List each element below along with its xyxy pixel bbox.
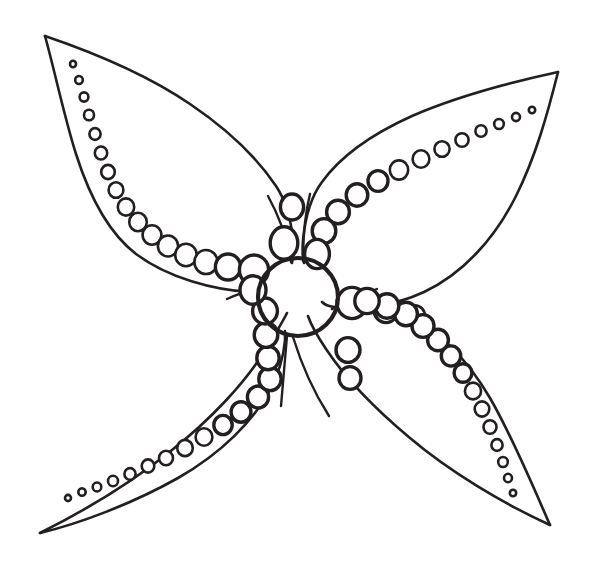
bead bbox=[494, 119, 504, 129]
bead bbox=[465, 383, 481, 400]
bead bbox=[70, 61, 76, 67]
bead bbox=[475, 401, 490, 416]
bead bbox=[108, 476, 118, 486]
bead bbox=[257, 346, 279, 370]
bead bbox=[231, 402, 251, 423]
coloring-page-canvas bbox=[0, 0, 604, 567]
bead bbox=[84, 110, 94, 121]
bead bbox=[346, 184, 368, 206]
bead bbox=[196, 428, 213, 446]
bead bbox=[491, 439, 502, 451]
bead bbox=[336, 338, 360, 363]
bead bbox=[159, 451, 173, 466]
bead bbox=[101, 165, 115, 179]
bead bbox=[89, 128, 100, 140]
bead bbox=[93, 483, 102, 492]
bead bbox=[65, 495, 71, 501]
bead bbox=[510, 490, 516, 497]
bead bbox=[498, 457, 508, 467]
bead bbox=[390, 160, 408, 179]
bead bbox=[529, 107, 535, 114]
bead bbox=[280, 194, 303, 220]
bead bbox=[75, 76, 83, 84]
bead bbox=[215, 254, 240, 280]
bead bbox=[434, 141, 449, 157]
bead bbox=[78, 488, 85, 496]
bead bbox=[413, 150, 430, 168]
bead bbox=[339, 367, 361, 390]
bead bbox=[455, 133, 468, 147]
bead bbox=[80, 92, 89, 101]
bead bbox=[475, 125, 486, 137]
flower-line-drawing bbox=[0, 0, 604, 567]
bead bbox=[109, 182, 124, 198]
bead bbox=[270, 227, 298, 259]
bead bbox=[124, 468, 135, 480]
bead bbox=[118, 198, 134, 215]
bead bbox=[484, 420, 497, 434]
bead bbox=[142, 459, 155, 472]
bead bbox=[177, 440, 193, 456]
bead bbox=[95, 147, 107, 160]
bead bbox=[214, 415, 232, 434]
bead bbox=[355, 288, 379, 313]
bead bbox=[454, 364, 472, 383]
page-background bbox=[0, 0, 604, 567]
bead bbox=[504, 474, 512, 482]
bead bbox=[368, 171, 388, 192]
bead bbox=[512, 113, 520, 121]
